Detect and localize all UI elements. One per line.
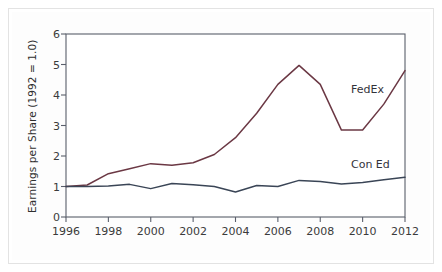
x-tick-label: 1996 (52, 226, 80, 237)
y-axis-ticks (61, 34, 66, 217)
x-tick-label: 2012 (391, 226, 419, 237)
chart-figure: Earnings per Share (1992 = 1.0) 0123456 … (0, 0, 442, 272)
x-tick-label: 2008 (306, 226, 334, 237)
y-tick-label: 5 (40, 59, 60, 70)
y-tick-label: 2 (40, 151, 60, 162)
y-tick-label: 3 (40, 120, 60, 131)
x-axis-ticks (66, 217, 405, 222)
y-axis-title: Earnings per Share (1992 = 1.0) (26, 39, 38, 213)
plot-background (66, 34, 405, 217)
series-label-con-ed: Con Ed (351, 158, 390, 171)
x-tick-label: 2006 (264, 226, 292, 237)
y-tick-label: 6 (40, 29, 60, 40)
series-label-fedex: FedEx (351, 83, 384, 96)
y-tick-label: 4 (40, 90, 60, 101)
x-tick-label: 2004 (222, 226, 250, 237)
plot-box (66, 34, 405, 217)
x-tick-label: 2010 (349, 226, 377, 237)
y-tick-label: 0 (40, 212, 60, 223)
x-tick-label: 1998 (94, 226, 122, 237)
y-tick-label: 1 (40, 181, 60, 192)
x-tick-label: 2000 (137, 226, 165, 237)
x-tick-label: 2002 (179, 226, 207, 237)
